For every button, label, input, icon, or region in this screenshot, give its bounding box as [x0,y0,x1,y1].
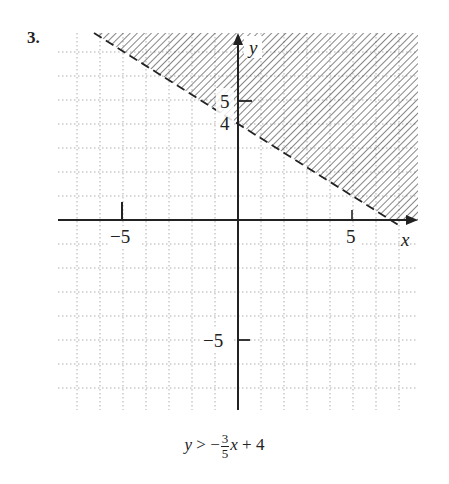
y-tick-label-4: 4 [220,113,230,134]
x-tick-label-neg5: −5 [110,226,130,247]
eq-plus: + [242,435,252,454]
x-axis-label: x [400,229,410,250]
eq-lhs: y [185,435,193,454]
inequality-graph: y 5 4 −5 −5 5 x [0,0,449,484]
inequality-equation: y > −35x + 4 [0,432,449,461]
y-tick-label-neg5: −5 [203,330,223,351]
eq-denominator: 5 [221,447,230,461]
eq-sign: − [210,435,220,454]
eq-variable: x [230,435,238,454]
shaded-region [94,33,418,221]
eq-numerator: 3 [221,432,230,447]
x-tick-label-5: 5 [346,226,356,247]
eq-relation: > [196,435,206,454]
eq-constant: 4 [256,435,265,454]
y-tick-label-5: 5 [220,91,230,112]
eq-fraction: 35 [221,432,230,461]
y-axis-label: y [247,37,258,58]
